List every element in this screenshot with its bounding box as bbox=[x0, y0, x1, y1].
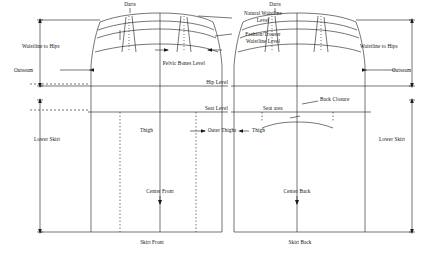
fashion-waistline-leader bbox=[215, 34, 232, 36]
arrow-right-down bbox=[410, 83, 414, 88]
label-back-closure: Back Closure bbox=[320, 97, 349, 103]
label-outer-thighs: Outer Thighs bbox=[208, 128, 237, 134]
label-center-front: Center Front bbox=[146, 189, 174, 195]
front-dart-right-b bbox=[187, 17, 191, 52]
label-center-back: Center Back bbox=[284, 189, 311, 195]
arrowheads bbox=[38, 18, 414, 234]
label-hip-level: Hip Level bbox=[206, 80, 228, 86]
label-skirt-front: Skirt Front bbox=[140, 240, 164, 246]
label-pelvic-bones-level: Pelvic Bones Level bbox=[163, 61, 205, 67]
arrow-pelvic-left bbox=[164, 48, 169, 52]
arrow-outer-thighs-left bbox=[201, 129, 206, 133]
back-dart-right-b bbox=[324, 17, 328, 52]
seat-area-leader bbox=[290, 116, 300, 118]
label-skirt-back: Skirt Back bbox=[288, 240, 311, 246]
arrow-left-up bbox=[38, 18, 42, 23]
arrow-left-lower-up bbox=[38, 98, 42, 103]
label-waistline-to-hips-right: Waistline to Hips bbox=[360, 44, 398, 50]
back-seat-area-curve bbox=[262, 122, 333, 128]
back-closure-leader bbox=[302, 101, 318, 104]
arrow-outseam-right bbox=[362, 68, 367, 72]
front-pelvic-level-curve bbox=[95, 44, 218, 52]
label-lower-skirt-right: Lower Skirt bbox=[379, 137, 405, 143]
arrow-right-lower-up bbox=[410, 98, 414, 103]
front-dart-left-b bbox=[132, 16, 136, 52]
label-thigh-front: Thigh bbox=[140, 128, 153, 134]
diagram-canvas: Darts Darts Natural Waistline Level Fash… bbox=[0, 0, 439, 254]
arrow-left-lower-down bbox=[38, 229, 42, 234]
front-fashion-waist-curve bbox=[97, 29, 216, 38]
arrow-right-up bbox=[410, 18, 414, 23]
label-waistline-to-hips-left: Waistline to Hips bbox=[22, 44, 60, 50]
label-seat-level: Seat Level bbox=[205, 106, 228, 112]
label-darts-front: Darts bbox=[124, 2, 136, 8]
center-front-arrow bbox=[158, 200, 162, 205]
front-right-outseam bbox=[213, 22, 222, 86]
front-dart-left-a bbox=[122, 17, 126, 52]
label-lower-skirt-left: Lower Skirt bbox=[34, 137, 60, 143]
label-darts-back: Darts bbox=[269, 2, 281, 8]
arrow-right-lower-down bbox=[410, 229, 414, 234]
label-outseam-right: Outseam bbox=[392, 68, 411, 74]
center-back-arrow bbox=[295, 200, 299, 205]
label-fashion-trouser-waistline-level: Fashion/Trouser Waistline Level bbox=[245, 31, 280, 44]
label-thigh-back: Thigh bbox=[252, 128, 265, 134]
label-natural-waistline-level: Natural Waistline Level bbox=[244, 10, 282, 23]
arrow-outer-thighs-right bbox=[238, 129, 243, 133]
front-intermediate-waist-curve bbox=[98, 21, 214, 30]
back-pelvic-level-curve bbox=[238, 44, 361, 52]
front-left-outseam bbox=[91, 22, 100, 86]
back-left-outseam bbox=[234, 22, 243, 86]
arrow-outseam-left bbox=[89, 68, 94, 72]
back-right-outseam bbox=[356, 22, 365, 86]
arrow-left-down bbox=[38, 83, 42, 88]
front-natural-waist-curve bbox=[100, 13, 213, 22]
label-seat-area: Seat area bbox=[263, 106, 283, 112]
label-outseam-left: Outseam bbox=[14, 68, 33, 74]
